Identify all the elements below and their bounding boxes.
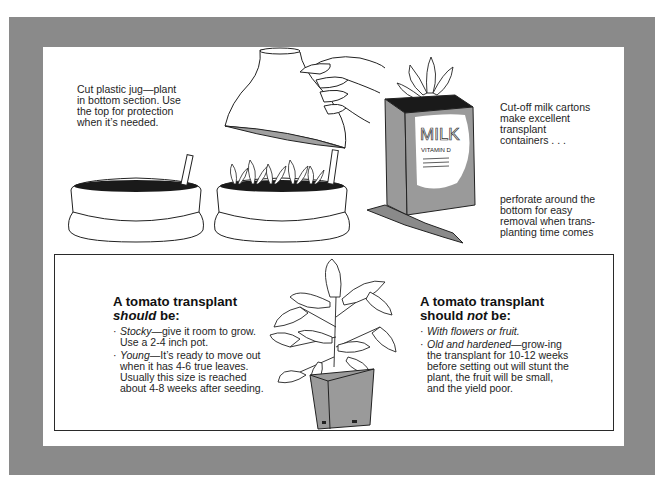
carton-caption: Cut-off milk cartons make excellent tran… [500, 102, 625, 146]
jug-bottom-soil-illustration [66, 150, 206, 245]
carton-label-sub: VITAMIN D [421, 147, 452, 153]
transplant-criteria-box: A tomato transplant should be: Stocky—gi… [54, 254, 614, 431]
should-be-column: A tomato transplant should be: Stocky—gi… [113, 295, 273, 396]
jug-bottom-seedlings-illustration [212, 150, 352, 245]
list-item: Stocky—give it room to grow. Use a 2-4 i… [113, 326, 273, 348]
jug-caption: Cut plastic jug—plant in bottom section.… [77, 84, 207, 128]
should-be-heading: A tomato transplant should be: [113, 295, 273, 322]
should-be-list: Stocky—give it room to grow. Use a 2-4 i… [113, 326, 273, 394]
should-not-be-column: A tomato transplant should not be: With … [420, 295, 570, 396]
carton-label-main: MILK [420, 125, 460, 144]
should-not-be-heading: A tomato transplant should not be: [420, 295, 570, 322]
list-item: With flowers or fruit. [420, 326, 570, 337]
list-item: Young—It’s ready to move out when it has… [113, 350, 273, 394]
perforate-caption: perforate around the bottom for easy rem… [500, 194, 625, 238]
tomato-plant-in-pot-illustration [270, 257, 400, 429]
list-item: Old and hardened—grow-ing the transplant… [420, 339, 570, 394]
milk-carton-illustration: MILK VITAMIN D [365, 55, 495, 250]
should-not-be-list: With flowers or fruit. Old and hardened—… [420, 326, 570, 394]
